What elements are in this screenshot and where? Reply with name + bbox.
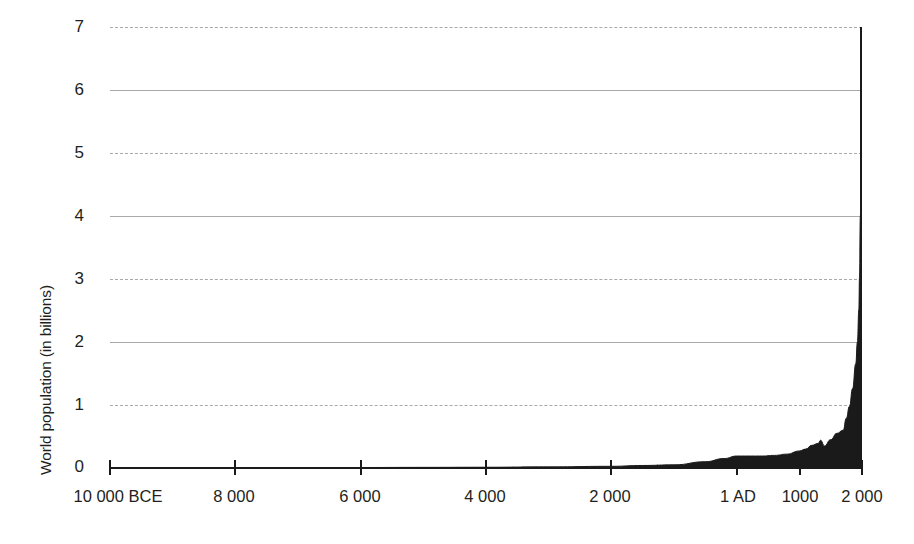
x-tick-label-4000-bce: 4 000 — [464, 486, 505, 506]
right-axis-line — [860, 27, 862, 469]
y-tick-label-3: 3 — [58, 270, 84, 288]
world-population-chart: World population (in billions) 7 6 5 4 3… — [0, 0, 914, 544]
x-tick-mark-2000-ad — [861, 460, 863, 475]
x-tick-label-6000-bce: 6 000 — [339, 486, 380, 506]
y-tick-label-5: 5 — [58, 144, 84, 162]
x-tick-label-8000-bce: 8 000 — [213, 486, 254, 506]
x-tick-mark-6000-bce — [360, 460, 362, 475]
x-tick-mark-1000-ad — [799, 460, 801, 475]
y-tick-label-1: 1 — [58, 396, 84, 414]
x-tick-label-2000-ad: 2 000 — [841, 486, 882, 506]
y-tick-label-6: 6 — [58, 81, 84, 99]
x-tick-mark-4000-bce — [485, 460, 487, 475]
y-tick-label-2: 2 — [58, 333, 84, 351]
x-tick-mark-10000-bce — [109, 460, 111, 475]
x-tick-mark-2000-bce — [610, 460, 612, 475]
y-tick-label-0: 0 — [58, 458, 84, 476]
population-area-series — [110, 27, 862, 468]
x-tick-mark-1-ad — [736, 460, 738, 475]
y-tick-label-7: 7 — [58, 18, 84, 36]
x-tick-label-1-ad: 1 AD — [720, 486, 756, 506]
x-tick-label-10000-bce: 10 000 BCE — [74, 486, 163, 506]
population-area-path — [110, 84, 862, 468]
plot-area — [110, 27, 862, 468]
x-tick-mark-8000-bce — [234, 460, 236, 475]
x-tick-label-2000-bce: 2 000 — [589, 486, 630, 506]
y-tick-label-4: 4 — [58, 207, 84, 225]
x-tick-label-1000-ad: 1000 — [782, 486, 819, 506]
